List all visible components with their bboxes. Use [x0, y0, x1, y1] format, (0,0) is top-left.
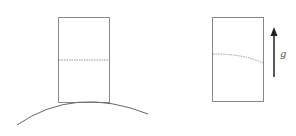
right-panel: g	[213, 18, 287, 102]
right-dotted-curve	[213, 54, 263, 63]
figure: g	[0, 0, 296, 136]
curved-surface	[17, 102, 148, 125]
gravity-arrow-head-icon	[271, 27, 278, 36]
gravity-label: g	[280, 48, 286, 59]
left-panel	[17, 18, 148, 126]
